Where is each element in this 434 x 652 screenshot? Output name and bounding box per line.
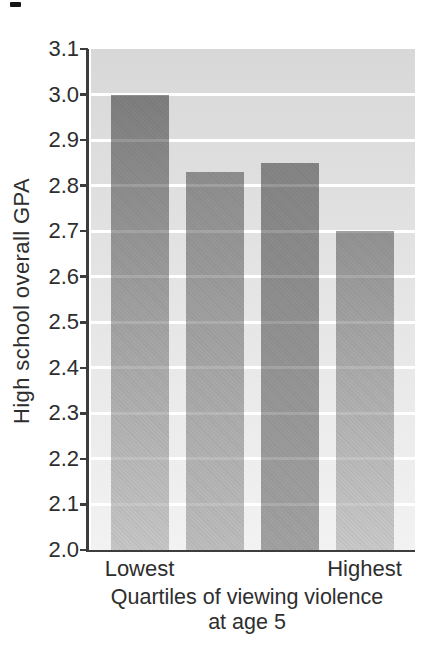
y-tick-label: 2.1 [0,493,79,515]
gridline-overlay [91,93,415,96]
y-tick-label: 2.0 [0,539,79,561]
y-tick-mark [80,367,88,370]
y-tick-label: 3.0 [0,84,79,106]
y-tick-label: 2.5 [0,311,79,333]
y-tick-mark [80,184,88,187]
y-tick-mark [80,48,88,51]
y-tick-label: 2.7 [0,220,79,242]
y-tick-mark [80,139,88,142]
gridline-overlay [91,457,415,460]
bar-chart-figure: High school overall GPA 3.13.02.92.82.72… [0,0,434,652]
y-tick-label: 2.9 [0,129,79,151]
gridline-overlay [91,366,415,369]
gridline-overlay [91,230,415,233]
gridline-overlay [91,412,415,415]
y-tick-mark [80,275,88,278]
y-tick-label: 2.6 [0,266,79,288]
gridline-overlay [91,503,415,506]
x-category-label-highest: Highest [295,556,434,582]
y-tick-mark [80,549,88,552]
gridline-overlay [91,275,415,278]
gridline-overlay [91,321,415,324]
y-tick-mark [80,458,88,461]
x-axis-title-line1: Quartiles of viewing violence [92,585,402,610]
y-tick-label: 2.4 [0,357,79,379]
y-tick-mark [80,93,88,96]
y-tick-mark [80,230,88,233]
scan-artifact-mark [10,2,21,7]
y-tick-label: 2.3 [0,402,79,424]
x-axis-title-line2: at age 5 [92,610,402,635]
y-tick-label: 3.1 [0,38,79,60]
y-tick-mark [80,321,88,324]
y-tick-label: 2.2 [0,448,79,470]
y-tick-mark [80,503,88,506]
y-tick-mark [80,412,88,415]
x-category-label-lowest: Lowest [70,556,210,582]
y-tick-label: 2.8 [0,175,79,197]
y-axis-line [86,49,89,552]
gridline-overlay [91,139,415,142]
bar-quartile-3 [261,163,319,550]
bar-halftone-texture [186,172,244,550]
plot-area [91,49,415,550]
bar-halftone-texture [261,163,319,550]
gridline-overlay [91,184,415,187]
bar-quartile-2 [186,172,244,550]
